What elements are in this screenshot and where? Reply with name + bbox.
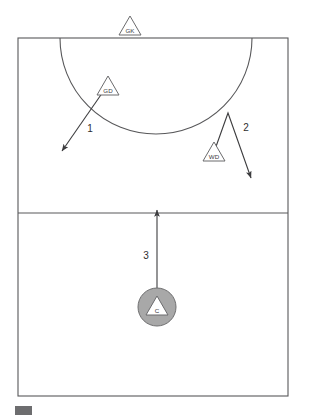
movement-arrow-1 [62, 89, 105, 151]
player-hit-gd[interactable] [95, 74, 121, 97]
player-marker-wd[interactable]: WD [201, 140, 227, 163]
player-marker-gk[interactable]: GK [117, 14, 143, 37]
court-outline [18, 38, 288, 396]
movement-number-1: 1 [87, 123, 93, 134]
movement-number-2: 2 [243, 122, 249, 133]
movement-number-3: 3 [143, 250, 149, 261]
netball-court-canvas: 1 2 3 GK GD WD C [0, 0, 310, 416]
goal-circle-arc [60, 38, 252, 134]
legend-swatch [15, 406, 32, 415]
player-marker-gd[interactable]: GD [95, 74, 121, 97]
player-hit-gk[interactable] [117, 14, 143, 37]
player-marker-c[interactable]: C [137, 287, 177, 327]
tactical-diagram-root: 1 2 3 GK GD WD C [0, 0, 310, 416]
player-hit-c[interactable] [137, 287, 177, 327]
player-hit-wd[interactable] [201, 140, 227, 163]
